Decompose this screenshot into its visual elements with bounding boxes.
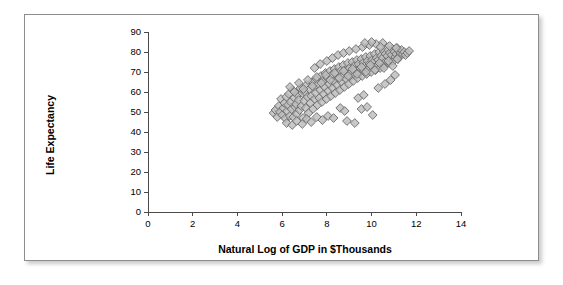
x-tick-label: 2: [190, 218, 195, 229]
x-tick-label: 6: [279, 218, 284, 229]
y-tick-label: 60: [130, 86, 141, 97]
y-tick-label: 30: [130, 146, 141, 157]
y-tick-label: 20: [130, 166, 141, 177]
y-tick-label: 40: [130, 126, 141, 137]
screenshot-root: 0102030405060708090 02468101214 Life Exp…: [0, 0, 563, 285]
x-axis-title: Natural Log of GDP in $Thousands: [218, 243, 392, 255]
x-tick-label: 14: [456, 218, 467, 229]
y-axis-title: Life Expectancy: [44, 95, 56, 175]
x-tick-label: 8: [324, 218, 329, 229]
y-axis: 0102030405060708090: [130, 26, 148, 217]
y-tick-label: 10: [130, 186, 141, 197]
data-point-marker: [350, 119, 359, 128]
y-tick-label: 80: [130, 46, 141, 57]
scatter-plot: 0102030405060708090 02468101214 Life Exp…: [25, 15, 540, 262]
data-point-marker: [368, 111, 377, 120]
x-tick-label: 12: [411, 218, 422, 229]
y-tick-label: 70: [130, 66, 141, 77]
data-points-group: [269, 38, 413, 130]
x-tick-label: 4: [235, 218, 240, 229]
data-point-marker: [343, 117, 352, 126]
y-tick-label: 50: [130, 106, 141, 117]
x-tick-label: 0: [145, 218, 150, 229]
y-tick-label: 90: [130, 26, 141, 37]
x-tick-label: 10: [366, 218, 377, 229]
x-axis: 02468101214: [145, 212, 466, 229]
y-tick-label: 0: [136, 206, 141, 217]
chart-canvas: 0102030405060708090 02468101214 Life Exp…: [25, 15, 540, 262]
chart-figure-frame: 0102030405060708090 02468101214 Life Exp…: [24, 14, 539, 261]
